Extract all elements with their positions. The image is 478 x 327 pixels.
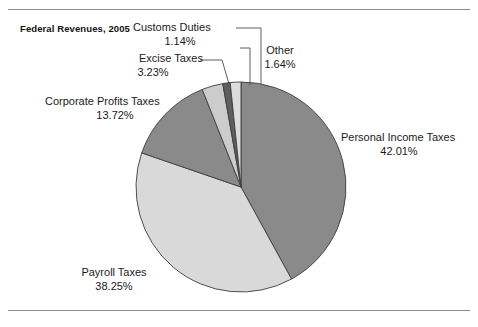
slice-label-personal-income-taxes: Personal Income Taxes 42.01%: [341, 131, 471, 158]
slice-label-value: 38.25%: [64, 280, 164, 294]
figure-container: Federal Revenues, 2005 Personal Income T…: [0, 0, 478, 327]
leader-line-excise-taxes: [200, 60, 229, 84]
slice-label-corporate-profits-taxes: Corporate Profits Taxes 13.72%: [45, 95, 185, 122]
slice-label-name: Corporate Profits Taxes: [45, 95, 185, 109]
slice-label-value: 3.23%: [113, 66, 203, 80]
slice-label-payroll-taxes: Payroll Taxes 38.25%: [64, 266, 164, 293]
slice-label-name: Payroll Taxes: [64, 266, 164, 280]
slice-label-name: Customs Duties: [133, 21, 243, 35]
slice-label-name: Excise Taxes: [113, 52, 203, 66]
slice-label-name: Personal Income Taxes: [341, 131, 471, 145]
slice-label-name: Other: [244, 44, 314, 58]
slice-label-value: 13.72%: [45, 109, 185, 123]
slice-label-other: Other 1.64%: [244, 44, 314, 71]
slice-label-excise-taxes: Excise Taxes 3.23%: [113, 52, 203, 79]
slice-label-value: 1.14%: [133, 35, 243, 49]
slice-label-value: 1.64%: [244, 58, 314, 72]
slice-label-value: 42.01%: [341, 145, 471, 159]
slice-label-customs-duties: Customs Duties 1.14%: [133, 21, 243, 48]
